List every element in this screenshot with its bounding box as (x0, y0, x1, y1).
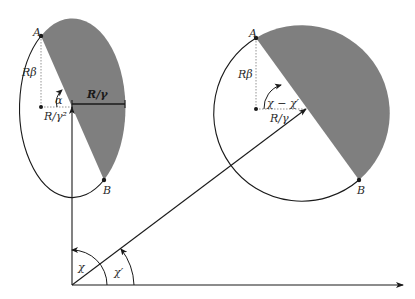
right-label-b: B (356, 184, 365, 197)
right-label-a: A (248, 27, 257, 40)
left-label-b: B (102, 184, 111, 197)
right-label-angle: χ − χ′ (266, 97, 300, 110)
left-label-alpha: α (55, 94, 63, 107)
diagram-canvas: A B Rβ α R/γ² R/γ A B Rβ χ − χ′ R/γ χ χ′ (0, 0, 415, 299)
right-point-b (357, 178, 361, 182)
left-center-dot (39, 105, 43, 109)
left-point-b (102, 178, 106, 182)
right-label-radius: R/γ (269, 112, 289, 125)
right-label-rbeta: Rβ (237, 68, 253, 81)
left-label-half-width: R/γ (86, 88, 108, 101)
left-label-a: A (32, 26, 41, 39)
label-chi: χ (77, 261, 86, 274)
left-label-offset: R/γ² (43, 110, 67, 123)
right-center-dot (254, 107, 258, 111)
left-label-rbeta: Rβ (21, 66, 37, 79)
label-chi-prime: χ′ (113, 266, 124, 279)
left-shaded-region (41, 18, 125, 180)
right-figure: A B Rβ χ − χ′ R/γ (214, 25, 390, 201)
